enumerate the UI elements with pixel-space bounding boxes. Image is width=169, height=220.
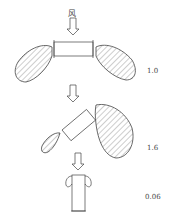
coefficient-label: 1.6 [147, 144, 159, 152]
pressure-lobe-right [96, 45, 135, 80]
plate-tilted [62, 109, 96, 140]
wind-label: 风 [68, 9, 76, 18]
stage-vertical: 0.06 [66, 153, 161, 211]
plate-horizontal [54, 42, 93, 56]
pressure-distribution-diagram: 风 1.0 1.6 0.06 [0, 0, 169, 220]
wind-arrow-icon [67, 85, 79, 102]
stage-tilted: 1.6 [41, 85, 158, 158]
stage-horizontal: 1.0 [15, 18, 158, 82]
pressure-lobe-right-small [85, 176, 91, 187]
plate-vertical [72, 175, 85, 211]
wind-arrow-icon [67, 18, 79, 35]
pressure-lobe-left-small [66, 176, 72, 187]
pressure-lobe-left [15, 45, 52, 82]
coefficient-label: 0.06 [145, 193, 161, 201]
coefficient-label: 1.0 [147, 67, 158, 75]
pressure-lobe-large [95, 104, 133, 158]
wind-arrow-icon [72, 153, 84, 170]
pressure-lobe-small [41, 133, 60, 153]
